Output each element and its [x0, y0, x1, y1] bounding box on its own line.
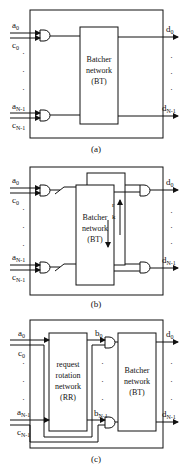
svg-text:·: · — [22, 84, 25, 94]
svg-text:dN-1: dN-1 — [162, 255, 176, 266]
svg-text:·: · — [22, 66, 25, 76]
svg-text:network: network — [86, 66, 112, 75]
svg-text:aN-1: aN-1 — [12, 252, 25, 263]
svg-text:aN-1: aN-1 — [17, 407, 30, 418]
svg-text:a0: a0 — [12, 20, 19, 31]
svg-text:·: · — [101, 394, 104, 404]
svg-text:cN-1: cN-1 — [12, 272, 25, 283]
svg-text:d0: d0 — [166, 24, 174, 35]
svg-text:·: · — [170, 376, 173, 386]
panel-a-batcher-box — [80, 27, 118, 124]
svg-text:·: · — [170, 222, 173, 232]
svg-text:·: · — [22, 48, 25, 58]
svg-text:Batcher: Batcher — [87, 55, 112, 64]
svg-text:(BT): (BT) — [91, 77, 107, 86]
svg-text:cN-1: cN-1 — [17, 427, 30, 438]
svg-text:(BT): (BT) — [87, 235, 103, 244]
svg-text:·: · — [22, 222, 25, 232]
svg-text:·: · — [170, 84, 173, 94]
svg-text:dN-1: dN-1 — [162, 409, 176, 420]
svg-text:(b): (b) — [91, 299, 102, 309]
svg-text:c0: c0 — [12, 195, 19, 206]
svg-text:c0: c0 — [12, 40, 19, 51]
svg-text:·: · — [170, 394, 173, 404]
svg-text:·: · — [22, 358, 25, 368]
svg-text:·: · — [101, 358, 104, 368]
svg-text:rotation: rotation — [56, 371, 81, 380]
svg-text:·: · — [170, 358, 173, 368]
svg-text:d0: d0 — [166, 177, 174, 188]
svg-text:a0: a0 — [12, 175, 19, 186]
svg-text:a0: a0 — [18, 328, 25, 339]
svg-text:k: k — [112, 213, 116, 221]
svg-text:network: network — [55, 382, 81, 391]
svg-text:·: · — [22, 204, 25, 214]
svg-text:network: network — [124, 377, 150, 386]
svg-text:b0: b0 — [95, 328, 103, 339]
svg-text:·: · — [22, 376, 25, 386]
svg-text:·: · — [22, 240, 25, 250]
svg-text:·: · — [170, 52, 173, 62]
svg-text:request: request — [56, 360, 80, 369]
svg-text:·: · — [170, 207, 173, 217]
svg-text:r: r — [112, 201, 115, 209]
svg-text:Batcher: Batcher — [125, 366, 150, 375]
svg-text:network: network — [82, 224, 108, 233]
diagram: a0 c0 aN-1 cN-1 d0 dN-1 Batcher network … — [0, 0, 192, 467]
svg-text:bN-1: bN-1 — [94, 408, 108, 419]
svg-text:(RR): (RR) — [60, 393, 76, 402]
svg-text:d0: d0 — [166, 329, 174, 340]
svg-text:Batcher: Batcher — [83, 213, 108, 222]
svg-text:·: · — [170, 68, 173, 78]
svg-text:·: · — [101, 376, 104, 386]
svg-text:dN-1: dN-1 — [162, 103, 176, 114]
svg-text:(a): (a) — [91, 144, 101, 154]
or-gate-icon — [40, 110, 50, 121]
svg-text:·: · — [22, 394, 25, 404]
or-gate-icon — [40, 30, 50, 41]
svg-text:cN-1: cN-1 — [12, 120, 25, 131]
svg-text:(BT): (BT) — [129, 388, 145, 397]
svg-text:aN-1: aN-1 — [12, 101, 25, 112]
svg-text:·: · — [170, 238, 173, 248]
svg-text:(c): (c) — [91, 454, 101, 464]
